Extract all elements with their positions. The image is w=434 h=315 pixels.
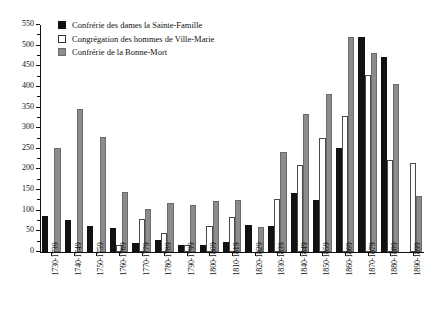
bar (371, 53, 377, 252)
x-tick-label: 1750-1759 (96, 243, 105, 276)
x-tick-label: 1740-1749 (74, 243, 83, 276)
bar-group (402, 25, 425, 252)
bar-group (153, 25, 176, 252)
legend-label: Confrérie de la Bonne-Mort (72, 47, 167, 57)
bar (326, 94, 332, 252)
y-tick-label: 200 (22, 163, 34, 173)
legend-swatch-icon (58, 21, 66, 29)
bar-group (266, 25, 289, 252)
bar-group (243, 25, 266, 252)
legend-item: Congrégation des hommes de Ville-Marie (58, 34, 214, 44)
bar-group (108, 25, 131, 252)
bar (54, 148, 60, 252)
x-tick: 1780-1789 (153, 252, 176, 314)
bar-group (40, 25, 63, 252)
bar-group (311, 25, 334, 252)
legend-swatch-icon (58, 48, 66, 56)
x-tick: 1770-1779 (130, 252, 153, 314)
x-tick: 1750-1759 (85, 252, 108, 314)
bar (245, 225, 251, 252)
y-tick-label: 50 (26, 225, 34, 235)
bar (100, 137, 106, 252)
y-tick-label: 150 (22, 184, 34, 194)
bar-group (85, 25, 108, 252)
y-tick-label: 100 (22, 205, 34, 215)
chart-legend: Confrérie des dames la Sainte-FamilleCon… (58, 20, 214, 57)
x-tick: 1840-1849 (289, 252, 312, 314)
x-tick: 1850-1859 (311, 252, 334, 314)
x-tick-label: 1790-1799 (187, 243, 196, 276)
legend-label: Confrérie des dames la Sainte-Famille (72, 20, 202, 30)
bar (77, 109, 83, 252)
x-tick-label: 1860-1869 (345, 243, 354, 276)
x-tick: 1740-1749 (63, 252, 86, 314)
x-tick-label: 1730-1739 (51, 243, 60, 276)
y-tick-label: 250 (22, 143, 34, 153)
x-tick-label: 1850-1859 (322, 243, 331, 276)
x-tick-label: 1880-1889 (390, 243, 399, 276)
bar-group (334, 25, 357, 252)
x-tick-label: 1870-1879 (368, 243, 377, 276)
bar (348, 37, 354, 252)
legend-item: Confrérie de la Bonne-Mort (58, 47, 214, 57)
x-tick-label: 1760-1769 (119, 243, 128, 276)
x-tick-label: 1810-1819 (232, 243, 241, 276)
x-tick-label: 1840-1849 (300, 243, 309, 276)
bar-group (63, 25, 86, 252)
x-tick-label: 1780-1789 (164, 243, 173, 276)
y-tick-label: 450 (22, 60, 34, 70)
x-tick: 1800-1809 (198, 252, 221, 314)
y-tick-label: 350 (22, 102, 34, 112)
x-tick: 1790-1799 (176, 252, 199, 314)
x-tick-label: 1820-1829 (255, 243, 264, 276)
x-tick: 1880-1889 (379, 252, 402, 314)
bar-group (198, 25, 221, 252)
legend-label: Congrégation des hommes de Ville-Marie (72, 34, 214, 44)
bar (303, 114, 309, 252)
bar-groups (40, 25, 424, 252)
x-tick-label: 1770-1779 (142, 243, 151, 276)
y-tick-label: 400 (22, 81, 34, 91)
x-tick-label: 1830-1839 (277, 243, 286, 276)
bar-group (221, 25, 244, 252)
bar-chart: 050100150200250300350400450500550 1730-1… (0, 0, 434, 315)
x-tick: 1810-1819 (221, 252, 244, 314)
x-tick-label: 1890-1899 (413, 243, 422, 276)
x-tick: 1860-1869 (334, 252, 357, 314)
x-axis-ticks: 1730-17391740-17491750-17591760-17691770… (40, 252, 424, 314)
bar-group (356, 25, 379, 252)
bar (280, 152, 286, 252)
x-tick: 1820-1829 (243, 252, 266, 314)
bar-group (176, 25, 199, 252)
x-tick: 1760-1769 (108, 252, 131, 314)
bar (65, 220, 71, 252)
x-tick: 1870-1879 (356, 252, 379, 314)
bar (87, 226, 93, 252)
legend-item: Confrérie des dames la Sainte-Famille (58, 20, 214, 30)
bar-group (379, 25, 402, 252)
x-tick: 1830-1839 (266, 252, 289, 314)
y-tick-label: 300 (22, 122, 34, 132)
y-tick-label: 0 (30, 246, 34, 256)
x-tick: 1890-1899 (402, 252, 425, 314)
x-tick: 1730-1739 (40, 252, 63, 314)
x-tick-label: 1800-1809 (209, 243, 218, 276)
bar (393, 84, 399, 252)
y-tick-label: 500 (22, 40, 34, 50)
y-tick-label: 550 (22, 19, 34, 29)
bar-group (130, 25, 153, 252)
legend-swatch-icon (58, 35, 66, 43)
bar (42, 216, 48, 252)
bar-group (289, 25, 312, 252)
